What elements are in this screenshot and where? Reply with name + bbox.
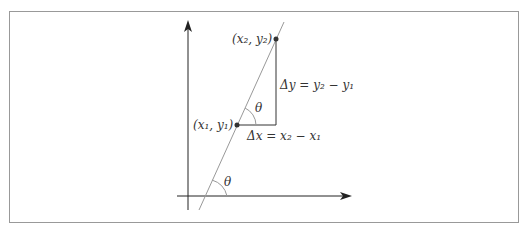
- diagram: (x₂, y₂) (x₁, y₁) Δy = y₂ − y₁ Δx = x₂ −…: [0, 0, 527, 233]
- point-2: [274, 37, 279, 42]
- label-delta-x: Δx = x₂ − x₁: [246, 129, 321, 143]
- label-p1: (x₁, y₁): [193, 118, 233, 132]
- label-p2: (x₂, y₂): [232, 32, 272, 46]
- sloped-line: [199, 22, 284, 210]
- label-theta-lower: θ: [224, 175, 232, 189]
- point-1: [235, 123, 240, 128]
- label-theta-upper: θ: [255, 101, 263, 115]
- label-delta-y: Δy = y₂ − y₁: [279, 78, 354, 92]
